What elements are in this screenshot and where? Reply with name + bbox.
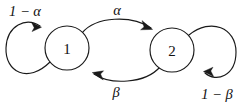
edge-2-to-1-edge xyxy=(92,67,160,81)
edge-2-to-1-label: β xyxy=(111,84,120,100)
self-loop-2-edge xyxy=(189,26,236,77)
edge-1-to-2-label: α xyxy=(113,2,121,18)
self-loop-1-path xyxy=(6,22,50,73)
self-loop-1-edge xyxy=(6,22,50,73)
edge-2-to-1-arrowhead xyxy=(92,71,103,80)
diagram-canvas: 1 2 1 − α α β 1 − β xyxy=(0,0,243,105)
node-state-2: 2 xyxy=(150,28,194,72)
edge-1-to-2-edge xyxy=(82,19,153,33)
state-2-label: 2 xyxy=(168,43,176,59)
self-loop-2-label: 1 − β xyxy=(201,86,233,102)
edge-2-to-1-path xyxy=(94,67,160,81)
self-loop-2-path xyxy=(189,26,236,77)
node-state-1: 1 xyxy=(45,26,89,70)
state-1-label: 1 xyxy=(63,41,71,57)
edge-1-to-2-path xyxy=(82,19,151,33)
self-loop-1-label: 1 − α xyxy=(9,3,41,19)
markov-chain-diagram: 1 2 1 − α α β 1 − β xyxy=(0,0,243,105)
edge-1-to-2-arrowhead xyxy=(141,21,153,30)
